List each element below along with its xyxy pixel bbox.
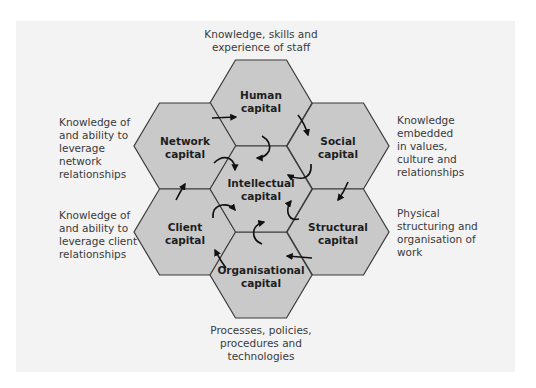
annotation-line: leverage client bbox=[59, 235, 137, 248]
annotation-line: in values, bbox=[397, 140, 464, 153]
annotation-line: network bbox=[59, 155, 130, 168]
annotation-line: culture and bbox=[397, 153, 464, 166]
annotation-line: Processes, policies, bbox=[196, 324, 326, 337]
hex-label-client: Clientcapital bbox=[165, 221, 205, 246]
annotation-line: procedures and bbox=[196, 337, 326, 350]
annotation-line: and ability to bbox=[59, 129, 130, 142]
annotation-line: Knowledge bbox=[397, 114, 464, 127]
annotation-client: Knowledge of and ability to leverage cli… bbox=[59, 209, 137, 261]
arrow-network-to-human bbox=[212, 117, 236, 118]
annotation-organisational: Processes, policies, procedures and tech… bbox=[196, 324, 326, 363]
annotation-human: Knowledge, skills and experience of staf… bbox=[200, 28, 322, 54]
annotation-line: Physical bbox=[397, 207, 478, 220]
annotation-line: leverage bbox=[59, 142, 130, 155]
annotation-line: and ability to bbox=[59, 222, 137, 235]
annotation-line: relationships bbox=[59, 248, 137, 261]
annotation-line: structuring and bbox=[397, 220, 478, 233]
annotation-line: relationships bbox=[397, 166, 464, 179]
annotation-line: technologies bbox=[196, 350, 326, 363]
hex-label-human: Humancapital bbox=[240, 89, 282, 114]
annotation-line: relationships bbox=[59, 168, 130, 181]
annotation-line: Knowledge of bbox=[59, 209, 137, 222]
annotation-line: organisation of bbox=[397, 233, 478, 246]
annotation-line: embedded bbox=[397, 127, 464, 140]
hex-label-network: Networkcapital bbox=[160, 135, 211, 160]
annotation-structural: Physical structuring and organisation of… bbox=[397, 207, 478, 259]
annotation-line: Knowledge, skills and bbox=[200, 28, 322, 41]
annotation-line: experience of staff bbox=[200, 41, 322, 54]
annotation-line: work bbox=[397, 246, 478, 259]
hex-label-social: Socialcapital bbox=[318, 135, 358, 160]
annotation-network: Knowledge of and ability to leverage net… bbox=[59, 116, 130, 181]
annotation-line: Knowledge of bbox=[59, 116, 130, 129]
annotation-social: Knowledge embedded in values, culture an… bbox=[397, 114, 464, 179]
